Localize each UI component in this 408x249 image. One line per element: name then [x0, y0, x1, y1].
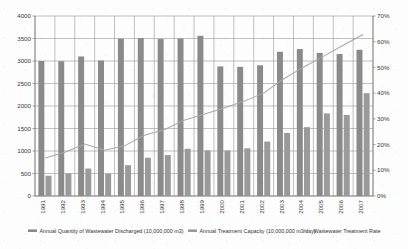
- bar-capacity: [344, 115, 350, 196]
- x-axis-label: 1992: [59, 199, 66, 213]
- y-axis-left-label: 4000: [17, 12, 31, 19]
- bar-capacity: [304, 127, 310, 196]
- bar-discharged: [158, 39, 164, 196]
- bar-capacity: [145, 158, 151, 196]
- legend-label: Wastewater Treatment Rate: [314, 228, 381, 234]
- bar-capacity: [205, 150, 211, 196]
- x-axis-label: 1999: [198, 199, 205, 213]
- bar-discharged: [38, 61, 44, 196]
- x-axis-label: 1994: [99, 199, 106, 213]
- y-axis-left-label: 3000: [17, 57, 31, 64]
- bar-capacity: [364, 93, 370, 196]
- bar-capacity: [46, 176, 52, 196]
- bar-capacity: [105, 174, 111, 196]
- chart-svg: 050010001500200025003000350040000%10%20%…: [0, 0, 408, 249]
- bar-discharged: [118, 39, 124, 196]
- x-axis-label: 1998: [178, 199, 185, 213]
- y-axis-left-label: 500: [21, 170, 32, 177]
- y-axis-right-label: 30%: [377, 115, 390, 122]
- bar-capacity: [85, 169, 91, 196]
- bar-discharged: [98, 61, 104, 196]
- y-axis-right-label: 70%: [377, 12, 390, 19]
- x-axis-label: 2006: [337, 199, 344, 213]
- bar-discharged: [317, 53, 323, 196]
- combo-chart: 050010001500200025003000350040000%10%20%…: [0, 0, 408, 249]
- x-axis-label: 2005: [317, 199, 324, 213]
- x-axis-label: 2007: [357, 199, 364, 213]
- x-axis-label: 1991: [39, 199, 46, 213]
- bar-discharged: [337, 54, 343, 196]
- y-axis-right-label: 40%: [377, 89, 390, 96]
- bar-capacity: [264, 142, 270, 196]
- y-axis-left-label: 2500: [17, 80, 31, 87]
- x-axis-label: 2000: [218, 199, 225, 213]
- chart-page: 050010001500200025003000350040000%10%20%…: [0, 0, 408, 249]
- legend-label: Annual Treatment Capacity (10,000,000 m3…: [200, 228, 316, 234]
- bar-capacity: [65, 174, 71, 197]
- x-axis-label: 2002: [258, 199, 265, 213]
- line-treatment-rate: [45, 35, 363, 158]
- bar-discharged: [357, 50, 363, 196]
- legend-swatch-bar: [28, 229, 37, 232]
- bar-capacity: [125, 165, 131, 196]
- bar-capacity: [165, 155, 171, 196]
- y-axis-left-label: 0: [28, 192, 32, 199]
- legend-label: Annual Quantity of Wastewater Discharged…: [40, 228, 184, 234]
- bar-capacity: [324, 113, 330, 196]
- y-axis-left-label: 2000: [17, 102, 31, 109]
- bar-discharged: [237, 67, 243, 196]
- x-axis-label: 1996: [138, 199, 145, 213]
- y-axis-right-label: 50%: [377, 64, 390, 71]
- bar-capacity: [284, 133, 290, 196]
- bar-discharged: [257, 65, 263, 196]
- x-axis-label: 1997: [158, 199, 165, 213]
- bar-capacity: [185, 149, 191, 196]
- y-axis-right-label: 60%: [377, 38, 390, 45]
- x-axis-label: 2003: [278, 199, 285, 213]
- y-axis-right-label: 20%: [377, 141, 390, 148]
- bar-discharged: [78, 57, 84, 197]
- y-axis-left-label: 3500: [17, 35, 31, 42]
- bar-discharged: [277, 52, 283, 196]
- bar-discharged: [138, 38, 144, 196]
- x-axis-label: 1993: [79, 199, 86, 213]
- x-axis-label: 2001: [238, 199, 245, 213]
- x-axis-label: 2004: [297, 199, 304, 213]
- bar-capacity: [244, 148, 250, 196]
- y-axis-right-label: 0%: [377, 192, 386, 199]
- bar-discharged: [58, 61, 64, 196]
- y-axis-left-label: 1500: [17, 125, 31, 132]
- bar-capacity: [224, 151, 230, 196]
- bar-discharged: [178, 39, 184, 197]
- y-axis-left-label: 1000: [17, 147, 31, 154]
- y-axis-right-label: 10%: [377, 166, 390, 173]
- bar-discharged: [217, 66, 223, 196]
- x-axis-label: 1995: [118, 199, 125, 213]
- legend-swatch-bar: [188, 229, 197, 232]
